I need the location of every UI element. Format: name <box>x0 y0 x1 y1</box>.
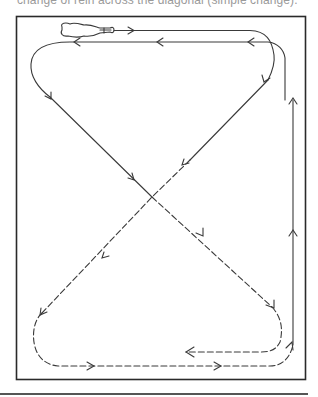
arrow-diag-3 <box>102 252 109 258</box>
arrow-down <box>262 75 270 82</box>
track-diagonal-solid-2 <box>190 80 268 160</box>
arena-border <box>17 17 306 380</box>
track-bottom-left-loop <box>34 313 293 366</box>
track-top-outbound <box>114 31 274 81</box>
horizontal-rule <box>0 393 308 395</box>
horse-icon <box>61 23 114 37</box>
track-bottom-right-loop <box>186 307 281 352</box>
arrow-diag-6 <box>266 300 274 308</box>
arena-diagram <box>0 0 318 397</box>
track-diagonal-solid-1 <box>50 97 152 197</box>
track-top-return <box>31 42 285 100</box>
track-diagonal-dashed-2 <box>152 197 272 307</box>
track-diagonal-dashed-1 <box>42 160 190 313</box>
arrow-diag-4 <box>196 228 203 236</box>
